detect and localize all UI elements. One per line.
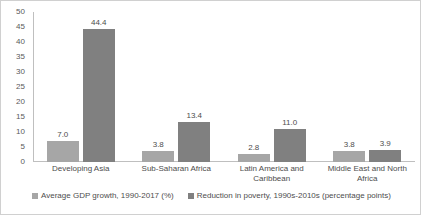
bar-rect[interactable] — [178, 122, 210, 162]
bar-group: 3.813.4 — [129, 12, 225, 162]
chart-container: 50454035302520151050 7.044.43.813.42.811… — [0, 0, 421, 215]
y-axis-tick-labels: 50454035302520151050 — [1, 12, 29, 162]
y-axis-tick: 10 — [16, 128, 25, 136]
y-axis-tick: 30 — [16, 68, 25, 76]
category-label: Sub-Saharan Africa — [129, 164, 225, 186]
bar-rect[interactable] — [369, 150, 401, 162]
bar-groups: 7.044.43.813.42.811.03.83.9 — [33, 12, 415, 162]
bar-rect[interactable] — [238, 154, 270, 162]
bar-item[interactable]: 11.0 — [274, 12, 306, 162]
legend-item[interactable]: Reduction in poverty, 1990s-2010s (perce… — [188, 191, 391, 200]
chart-legend: Average GDP growth, 1990-2017 (%)Reducti… — [1, 191, 422, 200]
bar-item[interactable]: 3.8 — [142, 12, 174, 162]
legend-item[interactable]: Average GDP growth, 1990-2017 (%) — [32, 191, 174, 200]
bar-value-label: 2.8 — [248, 143, 259, 152]
bar-item[interactable]: 3.9 — [369, 12, 401, 162]
bar-value-label: 13.4 — [186, 111, 202, 120]
bar-value-label: 44.4 — [91, 18, 107, 27]
y-axis-tick: 40 — [16, 38, 25, 46]
x-axis-category-labels: Developing AsiaSub-Saharan AfricaLatin A… — [33, 164, 415, 186]
category-label: Middle East and North Africa — [320, 164, 416, 186]
bar-group: 2.811.0 — [224, 12, 320, 162]
y-axis-tick: 20 — [16, 98, 25, 106]
bar-value-label: 11.0 — [282, 118, 297, 127]
legend-label: Reduction in poverty, 1990s-2010s (perce… — [197, 191, 391, 200]
bar-group: 7.044.4 — [33, 12, 129, 162]
y-axis-tick: 45 — [16, 23, 25, 31]
y-axis-tick: 15 — [16, 113, 25, 121]
bar-item[interactable]: 13.4 — [178, 12, 210, 162]
plot-area: 7.044.43.813.42.811.03.83.9 — [33, 12, 415, 162]
bar-rect[interactable] — [333, 151, 365, 162]
legend-swatch-icon — [188, 193, 194, 199]
bar-value-label: 7.0 — [57, 130, 68, 139]
bar-rect[interactable] — [47, 141, 79, 162]
category-label: Developing Asia — [33, 164, 129, 186]
y-axis-tick: 50 — [16, 8, 25, 16]
bar-value-label: 3.8 — [153, 140, 164, 149]
y-axis-tick: 5 — [21, 143, 25, 151]
bar-item[interactable]: 3.8 — [333, 12, 365, 162]
y-axis-tick: 35 — [16, 53, 25, 61]
y-axis-tick: 0 — [21, 158, 25, 166]
bar-rect[interactable] — [274, 129, 306, 162]
bar-value-label: 3.8 — [344, 140, 355, 149]
bar-rect[interactable] — [142, 151, 174, 162]
bar-item[interactable]: 7.0 — [47, 12, 79, 162]
bar-item[interactable]: 44.4 — [83, 12, 115, 162]
category-label: Latin America and Caribbean — [224, 164, 320, 186]
legend-label: Average GDP growth, 1990-2017 (%) — [41, 191, 174, 200]
bar-value-label: 3.9 — [380, 139, 391, 148]
bar-rect[interactable] — [83, 29, 115, 162]
legend-swatch-icon — [32, 193, 38, 199]
y-axis-tick: 25 — [16, 83, 25, 91]
bar-item[interactable]: 2.8 — [238, 12, 270, 162]
bar-group: 3.83.9 — [320, 12, 416, 162]
